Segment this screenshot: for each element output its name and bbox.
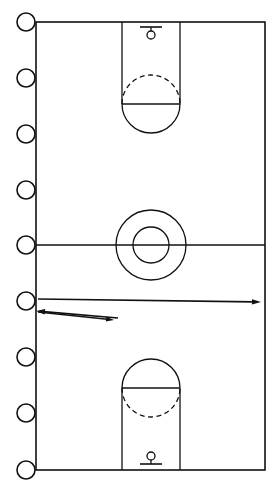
binding-hole-8 (17, 404, 35, 422)
binding-hole-3 (17, 125, 35, 143)
binding-hole-1 (17, 13, 35, 31)
top-rim-circle (147, 31, 155, 39)
bottom-rim-circle (147, 452, 155, 460)
binding-hole-5 (17, 236, 35, 254)
binding-hole-7 (17, 348, 35, 366)
spiral-binding-holes (17, 13, 35, 479)
binding-hole-2 (17, 69, 35, 87)
binding-hole-4 (17, 181, 35, 199)
binding-hole-9 (17, 461, 35, 479)
basketball-court-diagram (0, 0, 278, 489)
binding-hole-6 (17, 292, 35, 310)
court-outline (36, 22, 265, 470)
diagram-page (0, 0, 278, 489)
